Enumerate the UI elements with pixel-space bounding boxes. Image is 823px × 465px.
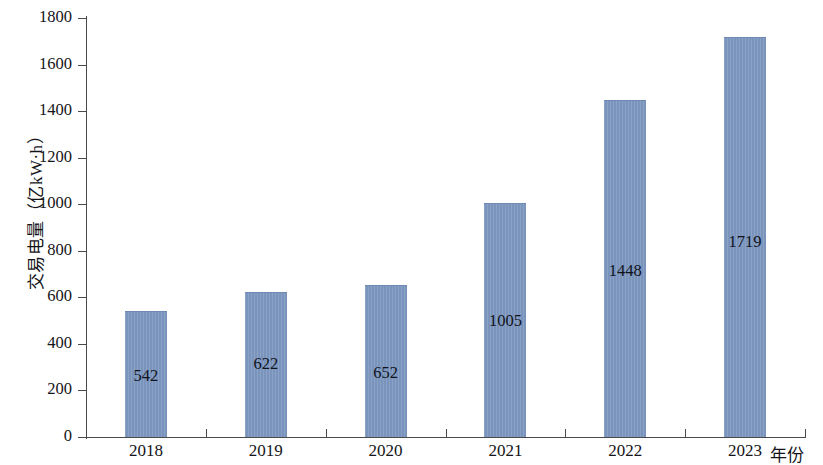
x-tick [326,429,327,437]
x-tick-label: 2018 [86,441,206,461]
y-tick-200 [78,390,86,391]
y-axis-line [86,16,87,439]
x-tick-label: 2022 [565,441,685,461]
bar-value-label: 622 [221,354,311,374]
x-tick-label: 2020 [326,441,446,461]
y-tick-600 [78,297,86,298]
x-axis-end-tick [805,429,806,438]
bar-chart: 交易电量（亿kW·h） 0200400600800100012001400160… [0,0,823,465]
y-tick-label: 1400 [0,100,72,120]
bar-value-label: 1448 [580,261,670,281]
y-tick-1200 [78,158,86,159]
y-tick-400 [78,344,86,345]
bar-value-label: 542 [101,366,191,386]
y-tick-label: 400 [0,333,72,353]
x-tick-label: 2019 [206,441,326,461]
y-tick-label: 200 [0,379,72,399]
x-axis-line [86,437,806,438]
y-tick-label: 1800 [0,7,72,27]
x-tick [685,429,686,437]
y-tick-0 [78,437,86,438]
y-tick-label: 800 [0,240,72,260]
bar-2020 [365,285,407,437]
y-tick-1000 [78,204,86,205]
y-tick-800 [78,251,86,252]
y-tick-1800 [78,18,86,19]
y-tick-1600 [78,65,86,66]
y-tick-1400 [78,111,86,112]
x-tick [206,429,207,437]
bar-value-label: 1005 [460,311,550,331]
y-tick-label: 600 [0,286,72,306]
y-tick-label: 1200 [0,147,72,167]
y-tick-label: 1600 [0,54,72,74]
x-tick [446,429,447,437]
x-axis-title: 年份 [770,441,804,465]
y-tick-label: 0 [0,426,72,446]
x-tick [565,429,566,437]
y-tick-label: 1000 [0,193,72,213]
bar-value-label: 1719 [700,232,790,252]
x-tick-label: 2021 [445,441,565,461]
bar-value-label: 652 [341,363,431,383]
